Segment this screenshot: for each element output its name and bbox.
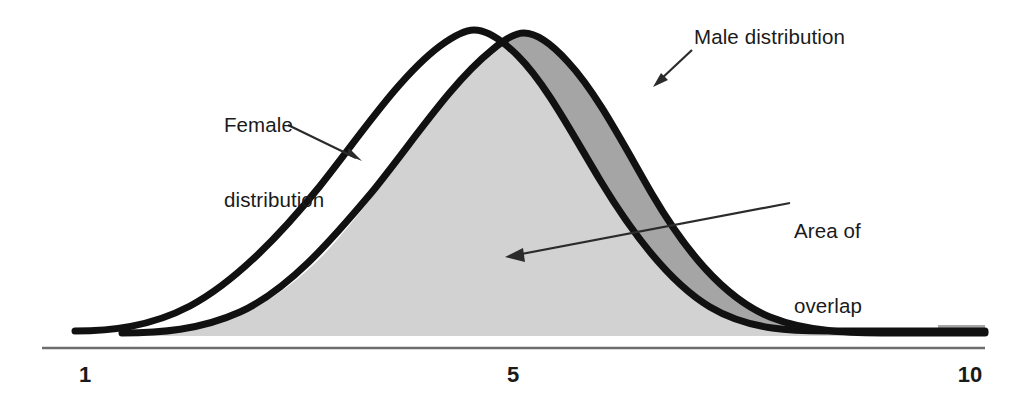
distribution-overlap-figure: Female distribution Male distribution Ar…: [0, 0, 1035, 406]
female-distribution-label: Female distribution: [224, 62, 324, 262]
x-axis-tick-label-1: 1: [60, 362, 110, 388]
male-distribution-leader: [653, 50, 692, 87]
female-distribution-label-line2: distribution: [224, 187, 324, 212]
distribution-overlap-chart: [0, 0, 1035, 406]
x-axis-tick-label-5: 5: [488, 362, 538, 388]
female-distribution-label-line1: Female: [224, 112, 324, 137]
x-axis-tick-label-10: 10: [945, 362, 995, 388]
male-distribution-label: Male distribution: [694, 24, 845, 49]
area-of-overlap-label: Area of overlap: [794, 168, 862, 368]
area-of-overlap-label-line2: overlap: [794, 293, 862, 318]
area-of-overlap-label-line1: Area of: [794, 218, 862, 243]
